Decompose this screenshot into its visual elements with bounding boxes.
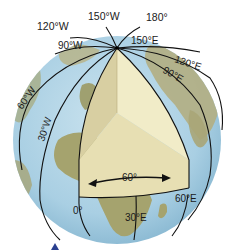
- globe-diagram: 150°W 180° 120°W 90°W 150°E 120°E 90°E 6…: [0, 0, 233, 252]
- triangle-marker-icon: [51, 243, 59, 250]
- label-120w: 120°W: [37, 20, 69, 32]
- label-180: 180°: [146, 11, 168, 23]
- label-0: 0°: [73, 205, 83, 216]
- label-150w: 150°W: [88, 10, 120, 22]
- label-angle-60: 60°: [122, 172, 137, 183]
- label-90w: 90°W: [58, 40, 83, 51]
- label-150e: 150°E: [131, 35, 159, 46]
- north-pole-dot: [115, 46, 119, 50]
- label-60e: 60°E: [175, 193, 197, 204]
- label-30e: 30°E: [125, 212, 147, 223]
